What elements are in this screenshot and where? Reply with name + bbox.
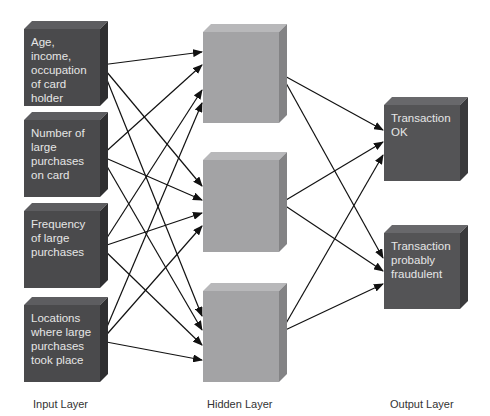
output-node-1: Transaction OK [384,97,468,181]
input-node-3: Frequency of large purchases [24,203,108,288]
box-front-face: Frequency of large purchases [24,211,100,288]
input-node-3-text: Frequency of large purchases [31,217,96,259]
box-side-face [100,203,108,288]
box-side-face [100,112,108,197]
edge-in4-h1 [101,103,202,341]
box-side-face [100,297,108,382]
box-top-face [24,203,108,211]
box-side-face [100,21,108,106]
box-side-face [279,283,287,382]
hidden-node-2 [203,152,287,252]
box-top-face [384,97,468,105]
box-front-face: Transaction probably fraudulent [384,233,460,309]
box-front-face [203,291,279,382]
input-node-2: Number of large purchases on card [24,112,108,197]
edge-h2-o1 [281,142,383,203]
input-node-1: Age, income, occupation of card holder [24,21,108,106]
edge-h2-o2 [281,203,383,271]
input-node-1-text: Age, income, occupation of card holder [31,35,96,105]
box-front-face [203,32,279,123]
output-node-2: Transaction probably fraudulent [384,225,468,309]
edge-in3-h3 [101,247,202,345]
box-top-face [203,152,287,160]
box-side-face [279,24,287,123]
edge-h3-o1 [281,155,383,332]
input-node-2-text: Number of large purchases on card [31,126,96,182]
box-top-face [203,24,287,32]
box-front-face: Locations where large purchases took pla… [24,305,100,382]
edge-in1-h1 [101,52,202,65]
box-top-face [24,297,108,305]
box-side-face [460,225,468,309]
hidden-node-3 [203,283,287,382]
edge-in2-h1 [101,65,202,156]
edge-in2-h2 [101,156,202,200]
output-layer-label: Output Layer [390,398,454,410]
box-top-face [203,283,287,291]
box-top-face [24,112,108,120]
hidden-node-1 [203,24,287,123]
box-top-face [384,225,468,233]
box-side-face [279,152,287,252]
output-node-2-text: Transaction probably fraudulent [391,239,456,281]
box-top-face [24,21,108,29]
hidden-layer-label: Hidden Layer [207,398,272,410]
edge-in1-h3 [101,65,202,316]
box-front-face: Age, income, occupation of card holder [24,29,100,106]
box-front-face [203,160,279,252]
edge-h3-o2 [281,284,383,332]
input-layer-label: Input Layer [33,398,88,410]
box-front-face: Number of large purchases on card [24,120,100,197]
input-node-4-text: Locations where large purchases took pla… [31,311,96,367]
input-node-4: Locations where large purchases took pla… [24,297,108,382]
box-side-face [460,97,468,181]
output-node-1-text: Transaction OK [391,111,456,139]
box-front-face: Transaction OK [384,105,460,181]
neural-network-diagram: Age, income, occupation of card holder N… [0,0,490,416]
edge-in4-h3 [101,341,202,360]
